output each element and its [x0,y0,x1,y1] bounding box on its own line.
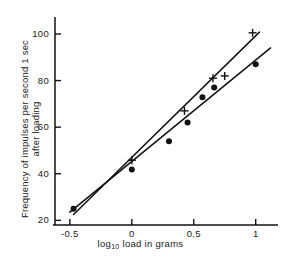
data-point-circle-0 [71,206,77,212]
y-axis-title: Frequency of impulses per second 1 sec a… [19,35,41,223]
data-point-circle-1 [129,167,135,173]
y-axis-title-line-2: after loading [30,35,41,223]
fit-line-circles [70,48,271,212]
y-axis-title-line-1: Frequency of impulses per second 1 sec [19,35,30,223]
data-markers [71,29,259,212]
data-point-circle-2 [166,138,172,144]
x-axis-title-rest: load in grams [120,238,184,249]
x-axis-title-subscript: 10 [111,243,119,250]
data-point-plus-3 [221,72,229,80]
x-axis-title-base: log [98,238,112,249]
data-point-circle-6 [253,61,259,67]
fit-lines [70,32,271,214]
figure-container: 20406080100 -0.500.51 log10 load in gram… [0,0,281,258]
data-point-circle-3 [185,120,191,126]
data-point-circle-4 [199,94,205,100]
fit-line-plus-marks [74,32,260,214]
data-point-circle-5 [211,85,217,91]
axes [53,17,278,225]
x-axis-title: log10 load in grams [0,238,281,249]
